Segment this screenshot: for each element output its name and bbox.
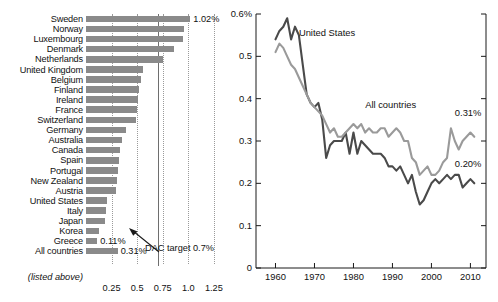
bar-category-label: Italy bbox=[0, 206, 86, 216]
bar-category-label: Korea bbox=[0, 226, 86, 236]
bar-fill bbox=[86, 218, 105, 225]
bar-row: Japan bbox=[0, 216, 224, 226]
bar-track bbox=[86, 44, 221, 54]
bar-category-label: Austria bbox=[0, 186, 86, 196]
x-tick-label: 2010 bbox=[460, 272, 481, 282]
bar-fill bbox=[86, 167, 118, 174]
bar-category-label: Netherlands bbox=[0, 54, 86, 64]
bar-fill bbox=[86, 157, 119, 164]
bar-fill bbox=[86, 238, 97, 245]
bar-row: Norway bbox=[0, 24, 224, 34]
line-annotation: All countries bbox=[365, 100, 416, 110]
y-tick-label: 0 bbox=[224, 263, 252, 273]
bar-row: Ireland bbox=[0, 95, 224, 105]
bar-fill bbox=[86, 248, 118, 255]
bar-fill bbox=[86, 96, 138, 103]
figure-root: Sweden1.02%NorwayLuxembourgDenmarkNether… bbox=[0, 0, 498, 302]
bar-track bbox=[86, 85, 221, 95]
bar-category-label: Denmark bbox=[0, 44, 86, 54]
bar-row: Belgium bbox=[0, 75, 224, 85]
bar-track: 1.02% bbox=[86, 14, 221, 24]
bar-fill bbox=[86, 187, 116, 194]
bar-category-label: Australia bbox=[0, 135, 86, 145]
line-annotation: 0.31% bbox=[455, 108, 482, 118]
bar-track bbox=[86, 186, 221, 196]
line-chart-canvas bbox=[224, 0, 498, 302]
bar-x-tick-label: 0.75 bbox=[154, 283, 172, 294]
bar-row: Switzerland bbox=[0, 115, 224, 125]
bar-category-label: Portugal bbox=[0, 166, 86, 176]
bar-fill bbox=[86, 86, 139, 93]
bar-row: Finland bbox=[0, 85, 224, 95]
bar-category-label: United States bbox=[0, 196, 86, 206]
bar-track bbox=[86, 196, 221, 206]
bar-fill bbox=[86, 16, 190, 23]
bar-track bbox=[86, 145, 221, 155]
bar-fill bbox=[86, 76, 141, 83]
bar-track bbox=[86, 166, 221, 176]
y-tick-label: 0.4 bbox=[224, 94, 252, 104]
line-chart-series bbox=[275, 18, 474, 204]
bar-row: Italy bbox=[0, 206, 224, 216]
bar-row: Korea bbox=[0, 226, 224, 236]
bar-fill bbox=[86, 26, 184, 33]
bar-track bbox=[86, 135, 221, 145]
bar-x-tick-label: 1.25 bbox=[205, 283, 223, 294]
line-chart-panel: 00.10.20.30.40.50.6% 1960197019801990200… bbox=[224, 0, 498, 302]
bar-value-label: 1.02% bbox=[193, 14, 219, 24]
bar-chart-x-axis: 0.250.50.751.01.25 bbox=[86, 283, 224, 297]
bar-category-label: Belgium bbox=[0, 75, 86, 85]
bar-x-tick-label: 0.5 bbox=[131, 283, 144, 294]
bar-fill bbox=[86, 207, 106, 214]
bar-row: Netherlands bbox=[0, 54, 224, 64]
bar-category-label: Japan bbox=[0, 216, 86, 226]
bar-track bbox=[86, 95, 221, 105]
x-tick-label: 2000 bbox=[421, 272, 442, 282]
bar-track bbox=[86, 24, 221, 34]
bar-track bbox=[86, 206, 221, 216]
x-tick-label: 1990 bbox=[382, 272, 403, 282]
x-tick-label: 1970 bbox=[304, 272, 325, 282]
bar-category-label: Norway bbox=[0, 24, 86, 34]
bar-row: Luxembourg bbox=[0, 34, 224, 44]
bar-category-label: United Kingdom bbox=[0, 65, 86, 75]
bar-fill bbox=[86, 137, 122, 144]
bar-row: Portugal bbox=[0, 166, 224, 176]
bar-category-label: Canada bbox=[0, 145, 86, 155]
y-tick-label: 0.1 bbox=[224, 221, 252, 231]
bar-category-label: Sweden bbox=[0, 14, 86, 24]
bar-category-label: New Zealand bbox=[0, 176, 86, 186]
bar-fill bbox=[86, 147, 120, 154]
bar-track bbox=[86, 216, 221, 226]
bar-row: Canada bbox=[0, 145, 224, 155]
dac-target-annotation: DAC target 0.7% bbox=[145, 243, 214, 254]
bar-value-label: 0.11% bbox=[100, 236, 125, 246]
bar-row: Sweden1.02% bbox=[0, 14, 224, 24]
bar-row: United States bbox=[0, 196, 224, 206]
bar-track bbox=[86, 54, 221, 64]
bar-row: Austria bbox=[0, 186, 224, 196]
bar-row: Spain bbox=[0, 155, 224, 165]
bar-category-label: Greece bbox=[0, 236, 86, 246]
line-annotation: United States bbox=[299, 28, 355, 38]
bar-row: Australia bbox=[0, 135, 224, 145]
bar-fill bbox=[86, 127, 126, 134]
bar-track bbox=[86, 75, 221, 85]
bar-track bbox=[86, 34, 221, 44]
bar-row: France bbox=[0, 105, 224, 115]
bar-x-tick-label: 0.25 bbox=[103, 283, 121, 294]
bar-fill bbox=[86, 36, 183, 43]
bar-category-label: Finland bbox=[0, 85, 86, 95]
bar-track bbox=[86, 65, 221, 75]
bar-fill bbox=[86, 106, 137, 113]
line-annotation: 0.20% bbox=[455, 159, 482, 169]
bar-track bbox=[86, 105, 221, 115]
bar-track bbox=[86, 125, 221, 135]
bar-fill bbox=[86, 117, 136, 124]
line-chart-axes bbox=[256, 14, 486, 268]
bar-row: United Kingdom bbox=[0, 65, 224, 75]
bar-category-label: Ireland bbox=[0, 95, 86, 105]
y-tick-label: 0.6% bbox=[224, 9, 252, 19]
bar-category-label: All countries bbox=[0, 246, 86, 256]
listed-above-caption: (listed above) bbox=[0, 272, 86, 282]
